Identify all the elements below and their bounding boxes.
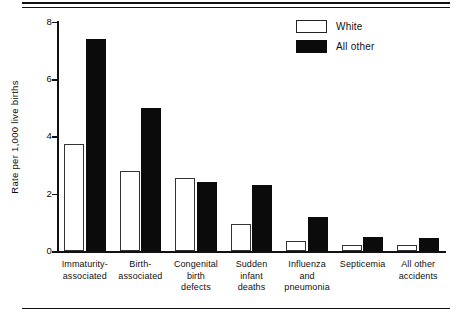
category-label-line: and <box>276 271 338 283</box>
category-label-line: pneumonia <box>276 282 338 294</box>
category-label-line: associated <box>110 271 172 283</box>
legend: White All other <box>296 20 426 60</box>
y-tick-mark <box>52 22 58 24</box>
category-label-line: accidents <box>387 271 449 283</box>
bar-white <box>120 171 140 251</box>
bar-white <box>175 178 195 251</box>
category-label-line: associated <box>54 271 116 283</box>
category-label: All otheraccidents <box>387 259 449 282</box>
category-label: Birth-associated <box>110 259 172 282</box>
y-tick-label: 4 <box>47 132 52 142</box>
top-rule-thick <box>22 2 450 4</box>
x-axis-line <box>57 251 446 253</box>
category-label-line: All other <box>387 259 449 271</box>
legend-swatch-white <box>296 20 327 33</box>
category-label-line: defects <box>165 282 227 294</box>
top-rule-thin <box>22 7 450 8</box>
bar-all-other <box>308 217 328 251</box>
category-label-line: Birth- <box>110 259 172 271</box>
category-label-line: Congenital <box>165 259 227 271</box>
category-label-line: Immaturity- <box>54 259 116 271</box>
bottom-rule <box>22 308 450 309</box>
bar-all-other <box>252 185 272 251</box>
bar-white <box>342 245 362 251</box>
bar-all-other <box>197 182 217 251</box>
y-axis-title: Rate per 1,000 live births <box>9 80 20 193</box>
category-label-line: Influenza <box>276 259 338 271</box>
bar-all-other <box>419 238 439 251</box>
legend-item-white: White <box>296 20 426 33</box>
legend-swatch-all-other <box>296 40 327 53</box>
y-tick-label: 0 <box>47 246 52 256</box>
y-tick-label: 8 <box>47 17 52 27</box>
bar-all-other <box>141 108 161 252</box>
category-label-line: Sudden <box>221 259 283 271</box>
category-label-line: Septicemia <box>332 259 394 271</box>
y-tick-label: 2 <box>47 189 52 199</box>
category-label-line: infant <box>221 271 283 283</box>
category-label-line: birth <box>165 271 227 283</box>
figure-bar-chart-infant-mortality: Rate per 1,000 live births 02468 Immatur… <box>0 0 465 322</box>
y-tick-mark <box>52 251 58 253</box>
bar-all-other <box>86 39 106 251</box>
bar-white <box>397 245 417 251</box>
bar-white <box>64 144 84 252</box>
bar-all-other <box>363 237 383 251</box>
legend-label-all-other: All other <box>336 41 375 52</box>
category-label-line: deaths <box>221 282 283 294</box>
legend-item-all-other: All other <box>296 40 426 53</box>
category-label: Immaturity-associated <box>54 259 116 282</box>
y-tick-label: 6 <box>47 74 52 84</box>
category-label: Septicemia <box>332 259 394 271</box>
bar-white <box>231 224 251 251</box>
category-label: Congenitalbirthdefects <box>165 259 227 294</box>
bar-white <box>286 241 306 251</box>
y-tick-mark <box>52 79 58 81</box>
category-label: Influenzaandpneumonia <box>276 259 338 294</box>
category-label: Suddeninfantdeaths <box>221 259 283 294</box>
y-tick-mark <box>52 194 58 196</box>
y-tick-mark <box>52 136 58 138</box>
legend-label-white: White <box>336 21 363 32</box>
